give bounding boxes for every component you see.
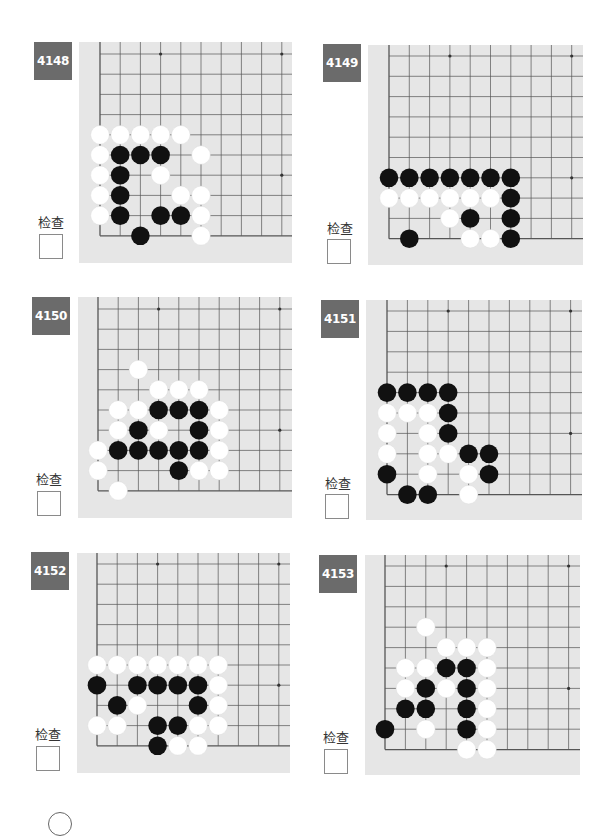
white-stone	[380, 189, 399, 208]
problem-number-badge: 4152	[31, 552, 69, 590]
go-board-grid	[78, 297, 292, 518]
go-board[interactable]	[77, 553, 290, 773]
white-stone	[419, 445, 438, 464]
go-board[interactable]	[79, 42, 292, 263]
problem-number-badge: 4151	[321, 300, 359, 338]
check-checkbox[interactable]	[324, 749, 348, 774]
white-stone	[209, 676, 228, 695]
white-stone	[91, 146, 110, 165]
black-stone	[441, 169, 460, 188]
black-stone	[131, 146, 150, 165]
white-stone	[419, 404, 438, 423]
black-stone	[111, 166, 130, 185]
star-point	[448, 54, 451, 57]
white-stone	[209, 656, 228, 675]
white-stone	[420, 189, 439, 208]
black-stone	[400, 229, 419, 248]
white-stone	[91, 206, 110, 225]
white-stone	[149, 421, 168, 440]
problem-number-badge: 4149	[323, 44, 361, 82]
white-stone	[189, 656, 208, 675]
black-stone	[417, 700, 436, 719]
go-board-grid	[368, 45, 583, 265]
black-stone	[172, 206, 191, 225]
star-point	[570, 176, 573, 179]
white-stone	[192, 227, 211, 246]
white-stone	[128, 696, 147, 715]
white-stone	[478, 720, 497, 739]
black-stone	[190, 401, 209, 420]
white-stone	[441, 189, 460, 208]
white-stone	[192, 146, 211, 165]
star-point	[277, 684, 280, 687]
white-stone	[459, 465, 478, 484]
check-label: 检查	[31, 212, 71, 231]
white-stone	[148, 656, 167, 675]
check-checkbox[interactable]	[325, 494, 349, 519]
star-point	[569, 432, 572, 435]
white-stone	[209, 716, 228, 735]
white-stone	[478, 638, 497, 657]
black-stone	[129, 441, 148, 460]
check-checkbox[interactable]	[37, 491, 61, 516]
black-stone	[437, 659, 456, 678]
white-stone	[478, 740, 497, 759]
white-stone	[210, 401, 229, 420]
check-label: 检查	[318, 473, 358, 492]
white-stone	[192, 206, 211, 225]
go-board[interactable]	[366, 300, 582, 520]
check-label: 检查	[29, 469, 69, 488]
black-stone	[88, 676, 107, 695]
black-stone	[190, 441, 209, 460]
white-stone	[396, 659, 415, 678]
black-stone	[457, 659, 476, 678]
check-label: 检查	[320, 218, 360, 237]
black-stone	[459, 445, 478, 464]
black-stone	[380, 169, 399, 188]
black-stone	[417, 679, 436, 698]
white-stone	[457, 740, 476, 759]
white-stone	[437, 638, 456, 657]
star-point	[277, 562, 280, 565]
star-point	[157, 307, 160, 310]
black-stone	[169, 676, 188, 695]
check-checkbox[interactable]	[327, 239, 351, 264]
go-board[interactable]	[365, 555, 580, 775]
go-board-grid	[77, 553, 290, 773]
white-stone	[151, 126, 170, 145]
black-stone	[396, 700, 415, 719]
white-stone	[478, 679, 497, 698]
black-stone	[111, 146, 130, 165]
white-stone	[129, 401, 148, 420]
white-stone	[481, 229, 500, 248]
black-stone	[398, 383, 417, 402]
white-stone	[109, 421, 128, 440]
go-board[interactable]	[78, 297, 292, 518]
black-stone	[419, 383, 438, 402]
problem-number-badge: 4153	[319, 555, 357, 593]
white-stone	[209, 696, 228, 715]
white-stone	[378, 424, 397, 443]
white-stone	[189, 737, 208, 756]
black-stone	[190, 421, 209, 440]
check-label: 检查	[28, 724, 68, 743]
star-point	[567, 687, 570, 690]
star-point	[280, 174, 283, 177]
star-point	[445, 564, 448, 567]
star-point	[159, 52, 162, 55]
check-checkbox[interactable]	[39, 234, 63, 259]
white-stone	[109, 401, 128, 420]
white-stone	[398, 404, 417, 423]
white-stone	[457, 638, 476, 657]
black-stone	[502, 229, 521, 248]
black-stone	[420, 169, 439, 188]
black-stone	[439, 424, 458, 443]
white-stone	[461, 229, 480, 248]
black-stone	[480, 445, 499, 464]
white-stone	[441, 209, 460, 228]
white-stone	[190, 381, 209, 400]
check-checkbox[interactable]	[36, 746, 60, 771]
go-board[interactable]	[368, 45, 583, 265]
problem-number-badge: 4150	[32, 297, 70, 335]
white-stone	[88, 716, 107, 735]
